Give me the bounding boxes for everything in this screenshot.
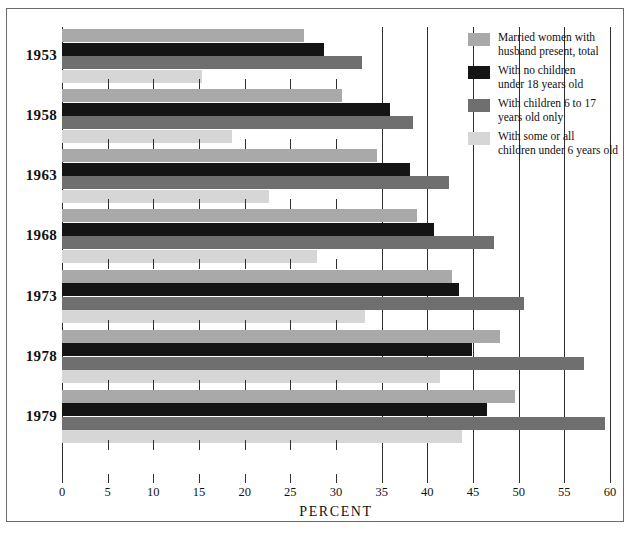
bar-1958-series-0 (62, 89, 342, 102)
minor-tick (199, 380, 200, 390)
bar-1963-series-0 (62, 149, 377, 162)
legend-swatch-0 (468, 33, 490, 46)
minor-tick (153, 259, 154, 269)
legend-item-2: With children 6 to 17years old only (468, 97, 628, 127)
minor-tick (199, 259, 200, 269)
legend-item-1: With no childrenunder 18 years old (468, 64, 628, 94)
minor-tick (108, 259, 109, 269)
x-tick-35 (382, 474, 383, 483)
bar-1978-series-2 (62, 357, 584, 370)
year-label-1978: 1978 (11, 348, 57, 365)
minor-tick (336, 139, 337, 149)
bar-1963-series-1 (62, 163, 410, 176)
x-tick-label-15: 15 (193, 485, 206, 500)
minor-tick (245, 440, 246, 450)
x-axis-title: PERCENT (62, 504, 610, 520)
x-tick-label-40: 40 (421, 485, 434, 500)
bar-1979-series-1 (62, 403, 487, 416)
bar-1979-series-2 (62, 417, 605, 430)
bar-1953-series-1 (62, 43, 324, 56)
legend-item-3: With some or allchildren under 6 years o… (468, 130, 628, 160)
bar-1958-series-3 (62, 130, 232, 143)
x-tick-label-25: 25 (284, 485, 297, 500)
x-tick-10 (153, 474, 154, 483)
chart-legend: Married women withhusband present, total… (468, 31, 628, 163)
year-label-1963: 1963 (11, 167, 57, 184)
minor-tick (153, 320, 154, 330)
year-label-1968: 1968 (11, 227, 57, 244)
bar-1953-series-2 (62, 56, 362, 69)
minor-tick (108, 380, 109, 390)
bar-1958-series-2 (62, 116, 413, 129)
chart-frame: 1953195819631968197319781979 05101520253… (6, 8, 624, 522)
bar-1968-series-1 (62, 223, 434, 236)
minor-tick (199, 199, 200, 209)
x-tick-0 (62, 474, 63, 483)
minor-tick (245, 380, 246, 390)
year-label-1973: 1973 (11, 288, 57, 305)
x-axis: 051015202530354045505560 (62, 474, 610, 476)
minor-tick (245, 199, 246, 209)
year-label-1953: 1953 (11, 47, 57, 64)
minor-tick (108, 199, 109, 209)
bar-1968-series-0 (62, 209, 417, 222)
x-tick-label-0: 0 (59, 485, 65, 500)
x-tick-label-60: 60 (604, 485, 617, 500)
minor-tick (108, 320, 109, 330)
x-tick-label-45: 45 (467, 485, 480, 500)
legend-label-2-line1: With children 6 to 17 (498, 97, 628, 111)
minor-tick (290, 199, 291, 209)
minor-tick (336, 440, 337, 450)
minor-tick (199, 139, 200, 149)
x-tick-label-10: 10 (147, 485, 160, 500)
legend-swatch-3 (468, 132, 490, 145)
minor-tick (290, 139, 291, 149)
bar-1953-series-0 (62, 29, 304, 42)
minor-tick (199, 320, 200, 330)
minor-tick (336, 259, 337, 269)
legend-label-0-line1: Married women with (498, 31, 628, 45)
minor-tick (108, 79, 109, 89)
x-tick-15 (199, 474, 200, 483)
minor-tick (108, 440, 109, 450)
minor-tick (153, 380, 154, 390)
minor-tick (336, 320, 337, 330)
minor-tick (153, 139, 154, 149)
minor-tick (245, 139, 246, 149)
minor-tick (199, 79, 200, 89)
x-tick-25 (290, 474, 291, 483)
x-tick-label-30: 30 (330, 485, 343, 500)
legend-label-1-line1: With no children (498, 64, 628, 78)
x-tick-40 (427, 474, 428, 483)
x-tick-60 (610, 474, 611, 483)
x-tick-45 (473, 474, 474, 483)
bar-1978-series-3 (62, 370, 440, 383)
x-tick-label-55: 55 (558, 485, 571, 500)
bar-1973-series-2 (62, 297, 524, 310)
x-tick-label-20: 20 (238, 485, 251, 500)
minor-tick (245, 259, 246, 269)
legend-label-2-line2: years old only (498, 111, 628, 125)
minor-tick (153, 440, 154, 450)
bar-group-1973 (62, 270, 610, 324)
bar-1979-series-3 (62, 430, 462, 443)
bar-1968-series-2 (62, 236, 494, 249)
legend-item-0: Married women withhusband present, total (468, 31, 628, 61)
x-tick-20 (245, 474, 246, 483)
bar-group-1968 (62, 209, 610, 263)
minor-tick (290, 79, 291, 89)
bar-1963-series-2 (62, 176, 449, 189)
minor-tick (290, 320, 291, 330)
year-label-1958: 1958 (11, 107, 57, 124)
minor-tick (108, 139, 109, 149)
bar-1958-series-1 (62, 103, 390, 116)
year-label-1979: 1979 (11, 408, 57, 425)
bar-group-1978 (62, 330, 610, 384)
minor-tick (336, 199, 337, 209)
minor-tick (290, 259, 291, 269)
legend-swatch-1 (468, 66, 490, 79)
x-tick-label-5: 5 (105, 485, 111, 500)
legend-label-1-line2: under 18 years old (498, 78, 628, 92)
bar-1963-series-3 (62, 190, 269, 203)
bar-1953-series-3 (62, 70, 202, 83)
